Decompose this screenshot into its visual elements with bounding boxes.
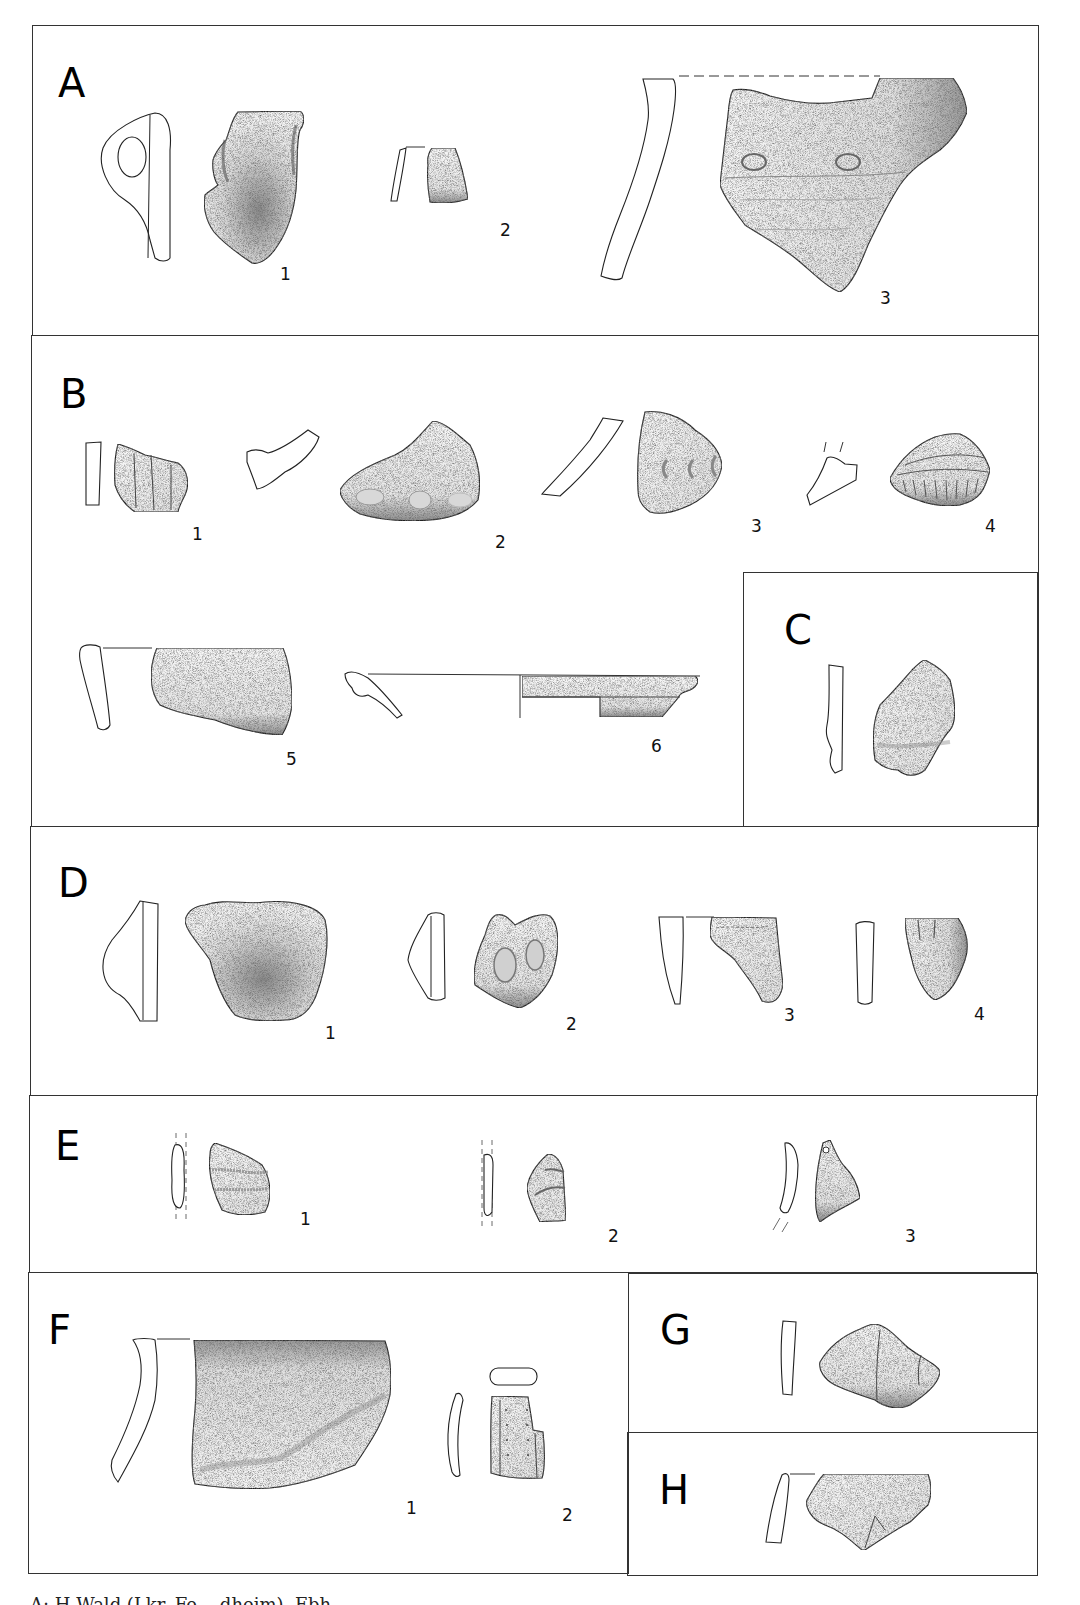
- item-number-a3: 3: [880, 290, 891, 307]
- panel-b-drawings: [80, 412, 990, 735]
- item-number-e2: 2: [608, 1228, 619, 1245]
- item-number-b1: 1: [192, 526, 203, 543]
- panel-h-drawings: [766, 1474, 931, 1550]
- item-number-f2: 2: [562, 1507, 573, 1524]
- panel-e-drawings: [172, 1133, 860, 1232]
- item-number-f1: 1: [406, 1500, 417, 1517]
- item-number-d4: 4: [974, 1006, 985, 1023]
- panel-label-a: A: [58, 63, 85, 103]
- panel-d-drawings: [103, 901, 967, 1021]
- sherd-drawings: [0, 0, 1080, 1605]
- item-number-d1: 1: [325, 1025, 336, 1042]
- pottery-plate-figure: A B C D E F G H 1 2 3 1 2 3 4 5 6 1 2 3 …: [0, 0, 1080, 1605]
- panel-label-f: F: [48, 1310, 71, 1350]
- item-number-d3: 3: [784, 1007, 795, 1024]
- panel-label-c: C: [784, 610, 812, 650]
- item-number-b3: 3: [751, 518, 762, 535]
- item-number-b5: 5: [286, 751, 297, 768]
- panel-a-drawings: [101, 76, 967, 292]
- item-number-b2: 2: [495, 534, 506, 551]
- item-number-e1: 1: [300, 1211, 311, 1228]
- item-number-b4: 4: [985, 518, 996, 535]
- item-number-b6: 6: [651, 738, 662, 755]
- panel-f-drawings: [111, 1339, 544, 1489]
- item-number-e3: 3: [905, 1228, 916, 1245]
- panel-label-h: H: [659, 1470, 689, 1510]
- panel-label-g: G: [660, 1310, 691, 1350]
- panel-c-drawings: [826, 660, 955, 775]
- item-number-a2: 2: [500, 222, 511, 239]
- item-number-d2: 2: [566, 1016, 577, 1033]
- panel-label-d: D: [58, 863, 89, 903]
- panel-label-b: B: [60, 374, 87, 414]
- panel-label-e: E: [55, 1126, 80, 1166]
- item-number-a1: 1: [280, 266, 291, 283]
- panel-g-drawings: [781, 1321, 940, 1408]
- figure-caption: A: H.Wald (Lkr. Fe... dheim). Ebh...: [30, 1593, 1050, 1605]
